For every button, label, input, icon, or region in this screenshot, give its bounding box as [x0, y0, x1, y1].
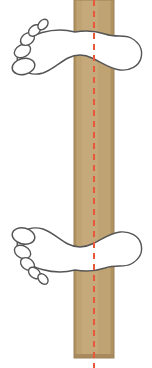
diagram-canvas — [0, 0, 152, 368]
feet-beam-illustration — [0, 0, 152, 368]
